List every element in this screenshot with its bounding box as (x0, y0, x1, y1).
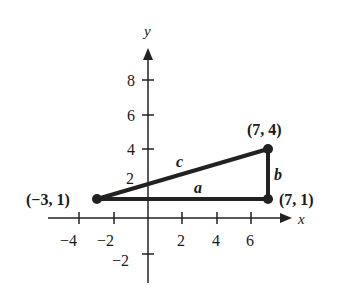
side-label-b: b (274, 166, 282, 183)
x-tick-label: −2 (97, 232, 114, 249)
x-tick-label: −4 (60, 232, 77, 249)
side-label-c: c (176, 153, 183, 170)
y-tick-label: 6 (127, 107, 135, 124)
point-marker (263, 194, 273, 204)
coordinate-plane: −4 −2 2 4 6 8 6 4 2 −2 y x (−3, 1) (7, 4… (0, 0, 339, 295)
x-tick-label: 4 (212, 232, 220, 249)
x-axis-label: x (297, 211, 305, 227)
y-tick-label: 4 (127, 141, 135, 158)
y-tick-label: 8 (127, 72, 135, 89)
point-label: (7, 4) (247, 121, 282, 139)
point-label: (7, 1) (279, 191, 314, 209)
point-label: (−3, 1) (26, 191, 70, 209)
y-tick-label: −2 (112, 252, 129, 269)
side-label-a: a (194, 179, 202, 196)
y-axis-arrow-icon (143, 48, 153, 60)
x-tick-label: 6 (246, 232, 254, 249)
x-axis-arrow-icon (280, 213, 292, 223)
y-tick-label: 2 (126, 170, 134, 187)
point-marker (92, 194, 102, 204)
point-marker (263, 144, 273, 154)
y-axis-label: y (142, 23, 151, 39)
x-tick-label: 2 (177, 232, 185, 249)
